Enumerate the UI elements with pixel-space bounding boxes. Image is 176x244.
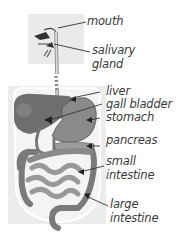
label-pancreas: pancreas [106, 134, 157, 146]
label-large-intestine-line1: large [110, 198, 138, 210]
digestive-system-diagram: mouth salivary gland liver gall bladder … [0, 0, 176, 244]
label-liver: liver [106, 85, 130, 97]
label-stomach: stomach [106, 111, 154, 123]
label-salivary-gland-line1: salivary [92, 44, 135, 56]
label-mouth: mouth [87, 15, 123, 27]
label-large-intestine-line2: intestine [110, 212, 158, 224]
label-salivary-gland-line2: gland [92, 58, 123, 70]
label-gall-bladder: gall bladder [106, 98, 172, 110]
label-small-intestine-line2: intestine [106, 169, 154, 181]
label-small-intestine-line1: small [106, 155, 136, 167]
